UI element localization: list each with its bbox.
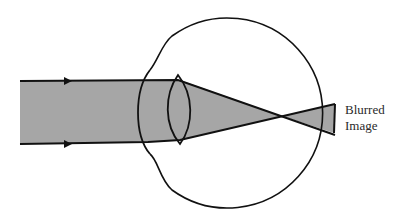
light-beam-incoming xyxy=(20,80,180,144)
eye-diagram xyxy=(0,0,404,220)
light-beam-converging xyxy=(180,80,282,140)
blurred-label: Blurred xyxy=(345,102,385,118)
image-label: Image xyxy=(345,118,377,134)
retina-blur-segment xyxy=(334,104,335,133)
